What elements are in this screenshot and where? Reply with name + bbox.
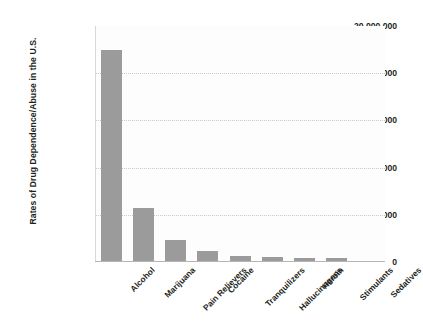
plot-area bbox=[95, 26, 385, 262]
bar bbox=[133, 208, 154, 262]
x-axis-line bbox=[95, 261, 385, 262]
bar bbox=[101, 50, 122, 262]
x-axis-tick-label: Stimulants bbox=[357, 265, 394, 302]
x-axis-tick-label: Marijuana bbox=[163, 265, 198, 300]
x-axis-tick-label: Heroin bbox=[320, 265, 346, 291]
y-axis-title: Rates of Drug Dependence/Abuse in the U.… bbox=[20, 0, 46, 262]
bars-layer bbox=[95, 26, 385, 262]
x-axis-tick-label: Alcohol bbox=[128, 265, 157, 294]
bar bbox=[165, 240, 186, 262]
